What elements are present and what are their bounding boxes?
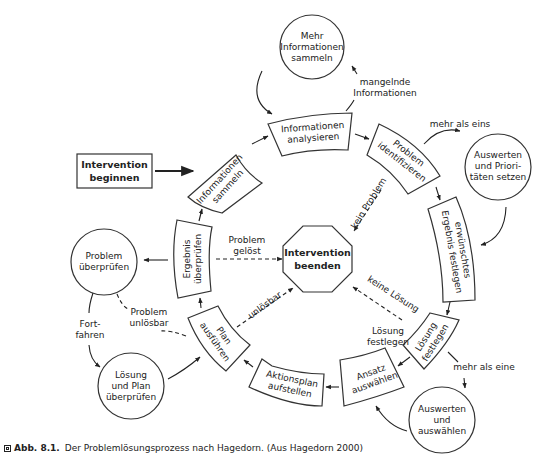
caption-text: Der Problemlösungsprozess nach Hagedorn.… [65,443,363,453]
arrow-loesung-plan-to-plan [168,357,200,379]
edge-fortfahren: Fort- fahren [70,319,110,341]
arrow-mehr-info-to-analysieren [257,71,272,114]
edge-loesung-festlegen: Lösung festlegen [364,326,412,348]
arrow-loesung-mehr-als-eine [448,352,458,362]
edge-mehr-als-eine: mehr als eine [444,362,524,373]
step-ergebnis-ueberpruefen: Ergebnis überprüfen [182,229,204,289]
edge-problem-geloest: Problem gelöst [222,235,272,257]
arrow-loesung-ansatz [398,357,410,366]
arrow-auswaehlen-to-ansatz [376,406,407,431]
arrow-mangelnde-up [352,66,357,74]
arrow-fortfahren-to-loesung [89,345,100,367]
arrow-identifizieren-ergebnis [436,187,440,200]
arrow-ergebnis-loesung [447,302,450,315]
edge-problem-unloesbar: Problem unlösbar [124,307,174,329]
side-problem-ueberpruefen: Problem überprüfen [69,251,139,273]
side-auswerten-auswaehlen: Auswerten und auswählen [407,404,477,437]
arrow-problem-ueberpruefen-fortfahren [89,293,93,313]
arrow-identifizieren-to-prioritaeten [424,130,460,144]
arrow-sammeln-analysieren [252,136,268,144]
arrow-analysieren-to-mehr-info [346,100,354,111]
end-label: Intervention beenden [283,246,352,272]
diagram-canvas [0,0,552,473]
side-auswerten-prioritaeten: Auswerten und Priori- täten setzen [463,150,533,183]
side-loesung-plan-ueberpruefen: Lösung und Plan überprüfen [96,370,166,403]
start-label: Intervention beginnen [77,158,152,184]
arrow-prioritaeten-to-ergebnis [481,207,506,245]
arrow-plan-ergebnis [200,298,201,308]
edge-mangelnde-informationen: mangelnde Informationen [345,77,425,99]
side-mehr-informationen: Mehr Informationen sammeln [277,31,347,64]
figure-caption: Abb. 8.1.Der Problemlösungsprozess nach … [4,443,363,453]
caption-label: Abb. 8.1. [14,443,60,453]
arrow-aktionsplan-plan [244,360,253,367]
arrow-mehr-als-eine-down [464,378,465,388]
edge-mehr-als-eins: mehr als eins [420,119,500,130]
arrow-ergebnis-sammeln [199,209,202,221]
arrow-analysieren-identifizieren [355,134,369,139]
caption-square-icon [4,445,11,452]
